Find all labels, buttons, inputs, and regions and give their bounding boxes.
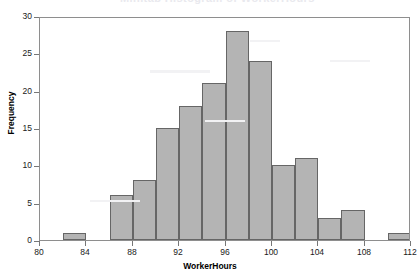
histogram-bar (63, 233, 86, 240)
y-axis-tick-label: 0 (4, 236, 32, 245)
x-axis-tick-label: 108 (349, 248, 379, 257)
histogram-figure: Minitab Histogram of WorkerHours Frequen… (0, 0, 420, 277)
histogram-bar (388, 233, 410, 240)
x-axis-tick (85, 241, 86, 246)
x-axis-tick-label: 92 (163, 248, 193, 257)
y-axis-tick (34, 92, 39, 93)
x-axis-tick-label: 96 (210, 248, 240, 257)
x-axis-tick-label: 104 (302, 248, 332, 257)
histogram-bar (341, 210, 364, 240)
scan-artifact (250, 40, 280, 42)
histogram-bar (133, 180, 156, 240)
histogram-bar (272, 165, 295, 240)
x-axis-tick (271, 241, 272, 246)
histogram-bar (249, 61, 272, 240)
x-axis-tick-label: 80 (24, 248, 54, 257)
histogram-bar (156, 128, 179, 240)
x-axis-tick (317, 241, 318, 246)
y-axis-tick (34, 204, 39, 205)
x-axis-tick-label: 112 (395, 248, 420, 257)
y-axis: Frequency 051015202530 (0, 0, 32, 277)
y-axis-tick-label: 15 (4, 124, 32, 133)
histogram-bar (318, 218, 341, 240)
x-axis-tick (39, 241, 40, 246)
y-axis-tick (34, 129, 39, 130)
x-axis-tick-label: 100 (256, 248, 286, 257)
x-axis-tick (225, 241, 226, 246)
scan-artifact (330, 60, 370, 62)
x-axis-title: WorkerHours (0, 261, 420, 271)
y-axis-tick-label: 30 (4, 12, 32, 21)
scan-artifact (150, 70, 210, 73)
y-axis-tick (34, 17, 39, 18)
scan-artifact (205, 120, 245, 122)
histogram-bar (226, 31, 249, 240)
y-axis-tick-label: 20 (4, 87, 32, 96)
x-axis-tick (178, 241, 179, 246)
histogram-bar (202, 83, 225, 240)
histogram-bar (295, 158, 318, 240)
y-axis-tick-label: 25 (4, 49, 32, 58)
x-axis-tick (410, 241, 411, 246)
x-axis-tick (132, 241, 133, 246)
cropped-title-remnant: Minitab Histogram of WorkerHours (0, 0, 420, 9)
y-axis-tick-label: 10 (4, 161, 32, 170)
histogram-bar (179, 106, 202, 240)
scan-artifact (90, 200, 140, 202)
x-axis-tick-label: 84 (70, 248, 100, 257)
cropped-title-text: Minitab Histogram of WorkerHours (120, 0, 315, 4)
x-axis-tick-label: 88 (117, 248, 147, 257)
y-axis-tick (34, 166, 39, 167)
y-axis-tick (34, 54, 39, 55)
plot-area (39, 17, 410, 241)
x-axis-tick (364, 241, 365, 246)
y-axis-tick-label: 5 (4, 199, 32, 208)
